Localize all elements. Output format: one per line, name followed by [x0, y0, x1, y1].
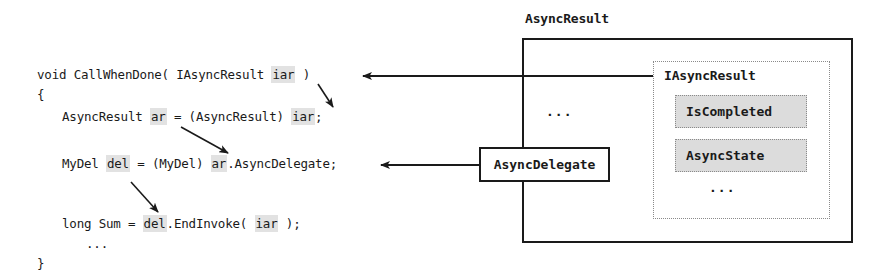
asyncdelegate-field-box: AsyncDelegate [479, 147, 610, 182]
var-iar-highlight: iar [255, 215, 279, 232]
var-del-highlight: del [106, 155, 130, 172]
code-text: long Sum = [62, 216, 143, 231]
arrow-del-flow-icon [131, 182, 158, 212]
iasyncresult-ellipsis: ... [709, 180, 735, 195]
arrow-ar-flow-icon [181, 127, 228, 153]
var-ar-highlight: ar [211, 155, 228, 172]
var-del-highlight: del [143, 215, 167, 232]
code-text: void CallWhenDone( IAsyncResult [37, 67, 271, 82]
code-line-ellipsis: ... [86, 236, 108, 252]
property-iscompleted: IsCompleted [675, 95, 807, 128]
code-line-signature: void CallWhenDone( IAsyncResult iar ) [37, 67, 310, 83]
param-iar-highlight: iar [271, 66, 295, 83]
code-line-open-brace: { [37, 87, 44, 103]
asyncresult-ellipsis: ... [546, 104, 572, 119]
code-line-delegate-cast: MyDel del = (MyDel) ar.AsyncDelegate; [62, 156, 337, 172]
code-text: .AsyncDelegate; [227, 156, 337, 171]
arrow-iar-flow-icon [318, 84, 333, 107]
code-text: AsyncResult [62, 109, 150, 124]
code-text: ); [278, 216, 300, 231]
code-line-asyncresult-cast: AsyncResult ar = (AsyncResult) iar; [62, 109, 322, 125]
code-text: ; [315, 109, 322, 124]
asyncresult-object-label: AsyncResult [525, 11, 609, 26]
iasyncresult-interface-label: IAsyncResult [664, 68, 756, 83]
code-line-endinvoke: long Sum = del.EndInvoke( iar ); [62, 216, 300, 232]
var-ar-highlight: ar [150, 108, 167, 125]
code-line-close-brace: } [37, 256, 44, 272]
code-text: .EndInvoke( [167, 216, 255, 231]
property-asyncstate: AsyncState [675, 139, 807, 172]
code-text: ) [295, 67, 310, 82]
code-text: MyDel [62, 156, 106, 171]
var-iar-highlight: iar [291, 108, 315, 125]
code-text: = (MyDel) [130, 156, 211, 171]
code-text: = (AsyncResult) [167, 109, 292, 124]
